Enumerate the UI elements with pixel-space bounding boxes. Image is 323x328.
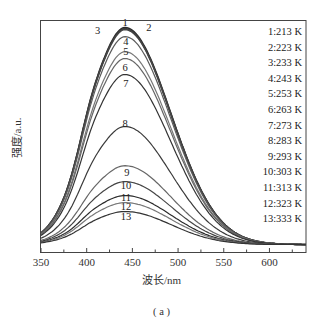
x-tick-label: 550 [216, 256, 233, 268]
x-axis-ticks: 350400450500550600 [33, 248, 293, 268]
x-tick-label: 450 [124, 256, 141, 268]
curve-label-10: 10 [121, 180, 132, 191]
x-tick-label: 600 [261, 256, 278, 268]
legend-entry: 4:243 K [268, 73, 303, 84]
curve-label-8: 8 [122, 118, 127, 129]
legend-entry: 3:233 K [268, 57, 303, 68]
legend-entry: 12:323 K [263, 198, 303, 209]
curve-label-13: 13 [121, 211, 132, 222]
legend-entry: 7:273 K [268, 120, 303, 131]
x-tick-label: 400 [78, 256, 95, 268]
legend-entry: 8:283 K [268, 135, 303, 146]
legend-entry: 9:293 K [268, 151, 303, 162]
legend-entry: 5:253 K [268, 88, 303, 99]
curve-label-2: 2 [146, 22, 151, 33]
legend-entry: 1:213 K [268, 26, 303, 37]
legend-entry: 10:303 K [263, 166, 303, 177]
legend: 1:213 K2:223 K3:233 K4:243 K5:253 K6:263… [263, 26, 303, 224]
legend-entry: 13:333 K [263, 213, 303, 224]
figure-caption: ( a ) [0, 306, 323, 317]
x-tick-label: 350 [33, 256, 50, 268]
curve-label-5: 5 [123, 46, 128, 57]
legend-entry: 6:263 K [268, 104, 303, 115]
curve-label-1: 1 [122, 17, 127, 28]
curve-label-6: 6 [122, 62, 127, 73]
curve-label-9: 9 [124, 167, 129, 178]
legend-entry: 11:313 K [263, 182, 302, 193]
y-axis-title: 强度/a.u. [8, 108, 24, 168]
curve-label-7: 7 [123, 78, 128, 89]
x-axis-title: 波长/nm [0, 271, 323, 287]
spectral-curves [41, 28, 306, 245]
legend-entry: 2:223 K [268, 42, 303, 53]
x-tick-label: 500 [170, 256, 187, 268]
curve-label-3: 3 [95, 25, 100, 36]
